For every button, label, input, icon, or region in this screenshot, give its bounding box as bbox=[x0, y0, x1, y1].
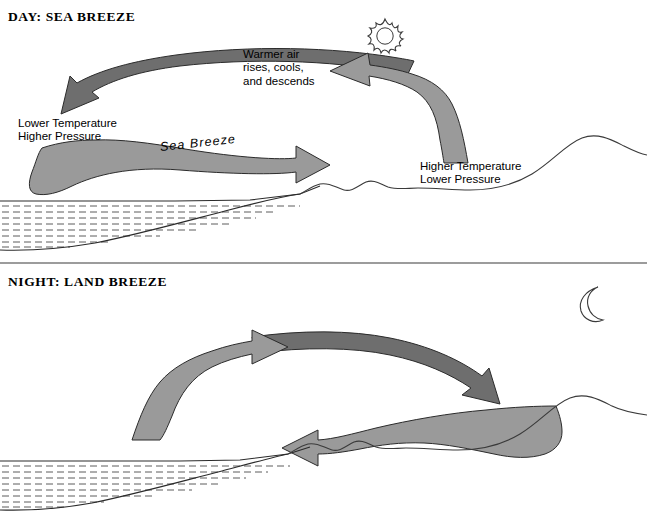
night-diagram-graphics bbox=[0, 264, 647, 527]
day-lower-temperature-label: Lower Temperature Higher Pressure bbox=[18, 117, 117, 144]
night-sea-water bbox=[0, 447, 310, 510]
moon-icon bbox=[580, 287, 603, 322]
night-land-breeze-arrow bbox=[282, 406, 562, 466]
sun-icon bbox=[368, 19, 403, 53]
day-sea-breeze-panel: DAY: SEA BREEZE bbox=[0, 0, 647, 263]
night-aloft-return-arrow bbox=[252, 332, 500, 404]
night-land-breeze-panel: NIGHT: LAND BREEZE bbox=[0, 264, 647, 527]
day-sea-water bbox=[0, 186, 320, 250]
day-higher-temperature-label: Higher Temperature Lower Pressure bbox=[420, 160, 521, 187]
day-aloft-label: Warmer air rises, cools, and descends bbox=[243, 48, 315, 88]
night-rising-air-arrow bbox=[132, 330, 288, 440]
sea-land-breeze-diagram: DAY: SEA BREEZE bbox=[0, 0, 647, 527]
